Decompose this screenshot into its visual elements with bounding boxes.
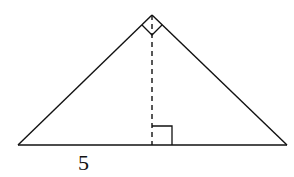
left-segment-label: 5: [78, 150, 89, 175]
left-leg: [18, 15, 152, 145]
foot-right-angle-mark: [152, 126, 172, 145]
triangle-diagram: 5: [0, 0, 294, 177]
